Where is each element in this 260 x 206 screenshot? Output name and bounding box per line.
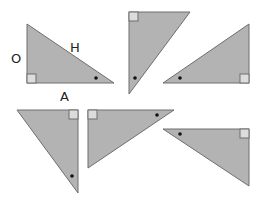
angle-dot bbox=[178, 76, 182, 80]
right-angle-marker bbox=[240, 129, 249, 138]
label-adjacent: A bbox=[60, 89, 69, 104]
right-angle-marker bbox=[129, 12, 138, 21]
triangle-4-shape bbox=[17, 110, 78, 193]
label-hypotenuse: H bbox=[70, 40, 80, 55]
label-opposite: O bbox=[11, 51, 21, 66]
angle-dot bbox=[133, 76, 137, 80]
right-angle-marker bbox=[88, 110, 97, 119]
triangle-6-shape bbox=[163, 129, 249, 186]
right-angle-marker bbox=[240, 74, 249, 83]
right-angle-marker bbox=[27, 74, 36, 83]
angle-dot bbox=[155, 113, 159, 117]
triangle-5-shape bbox=[88, 110, 174, 168]
triangle-5 bbox=[88, 110, 174, 168]
right-angle-marker bbox=[69, 110, 78, 119]
triangle-1: O H A bbox=[11, 24, 114, 104]
angle-dot bbox=[70, 174, 74, 178]
angle-dot bbox=[178, 132, 182, 136]
triangle-6 bbox=[163, 129, 249, 186]
triangles-diagram: O H A bbox=[0, 0, 260, 206]
triangle-3-shape bbox=[163, 24, 249, 83]
angle-dot bbox=[94, 76, 98, 80]
triangle-4 bbox=[17, 110, 78, 193]
triangle-3 bbox=[163, 24, 249, 83]
